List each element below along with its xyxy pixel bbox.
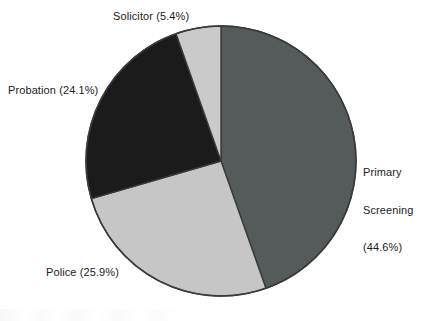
pie-label-primary-screening-line1: Primary <box>363 166 413 179</box>
pie-label-police: Police (25.9%) <box>46 266 119 279</box>
pie-chart-figure: Solicitor (5.4%) Probation (24.1%) Polic… <box>0 0 425 321</box>
pie-label-primary-screening: Primary Screening (44.6%) <box>363 141 413 279</box>
pie-label-probation: Probation (24.1%) <box>8 84 98 97</box>
pie-slices <box>86 26 356 296</box>
pie-label-solicitor: Solicitor (5.4%) <box>113 10 189 23</box>
pie-label-primary-screening-line2: Screening <box>363 204 413 217</box>
pie-label-primary-screening-line3: (44.6%) <box>363 241 413 254</box>
scan-artifact <box>0 309 425 321</box>
